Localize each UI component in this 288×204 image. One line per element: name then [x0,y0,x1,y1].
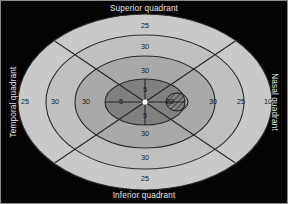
value-temporal-1: 25 [21,97,29,106]
value-superior-1: 25 [141,21,149,30]
quadrant-label-temporal: Temporal quadrant [8,37,20,167]
value-nasal-3: 30 [209,97,217,106]
isopter-plot: 25 30 30 5 5 30 30 25 25 30 30 5 20 30 2… [1,1,288,204]
fixation-point [142,99,147,104]
value-nasal-2: 25 [237,97,245,106]
value-superior-4: 5 [143,85,147,94]
value-superior-2: 30 [141,42,149,51]
visual-field-chart: 25 30 30 5 5 30 30 25 25 30 30 5 20 30 2… [0,0,288,204]
quadrant-label-superior: Superior quadrant [1,4,287,13]
value-nasal-4: 20 [166,97,174,106]
value-inferior-3: 30 [141,129,149,138]
value-temporal-3: 30 [82,97,90,106]
value-superior-3: 30 [141,66,149,75]
value-inferior-4: 5 [143,111,147,120]
quadrant-label-nasal: Nasal quadrant [268,37,280,167]
value-inferior-2: 30 [141,153,149,162]
value-temporal-4: 5 [119,97,123,106]
value-temporal-2: 30 [51,97,59,106]
value-inferior-1: 25 [141,174,149,183]
quadrant-label-inferior: Inferior quadrant [1,191,287,200]
